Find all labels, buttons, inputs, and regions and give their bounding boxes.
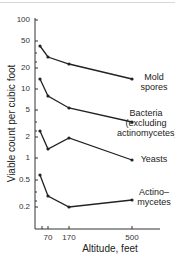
label-line: spores <box>134 82 174 92</box>
label-actinomycetes: Actino– mycetes <box>134 187 174 207</box>
label-line: (excluding <box>117 118 175 128</box>
series-actinomycetes <box>38 173 133 208</box>
label-mold-spores: Mold spores <box>134 72 174 92</box>
label-line: Actino– <box>134 187 174 197</box>
y-axis-title: Viable count per cubic foot <box>6 59 17 189</box>
y-tick-label: 0.2 <box>10 202 30 211</box>
x-tick-label: 170 <box>57 233 81 242</box>
label-line: Mold <box>134 72 174 82</box>
x-axis-title: Altitude, feet <box>55 243 165 254</box>
label-yeasts: Yeasts <box>134 154 174 164</box>
y-tick-label: 100 <box>10 15 30 24</box>
y-tick-label: 50 <box>10 36 30 45</box>
label-line: actinomycetes) <box>117 128 175 138</box>
label-line: Bacteria <box>117 108 175 118</box>
x-tick-label: 500 <box>120 233 144 242</box>
series-mold-spores <box>38 44 133 80</box>
label-bacteria: Bacteria (excluding actinomycetes) <box>117 108 175 138</box>
label-line: mycetes <box>134 197 174 207</box>
